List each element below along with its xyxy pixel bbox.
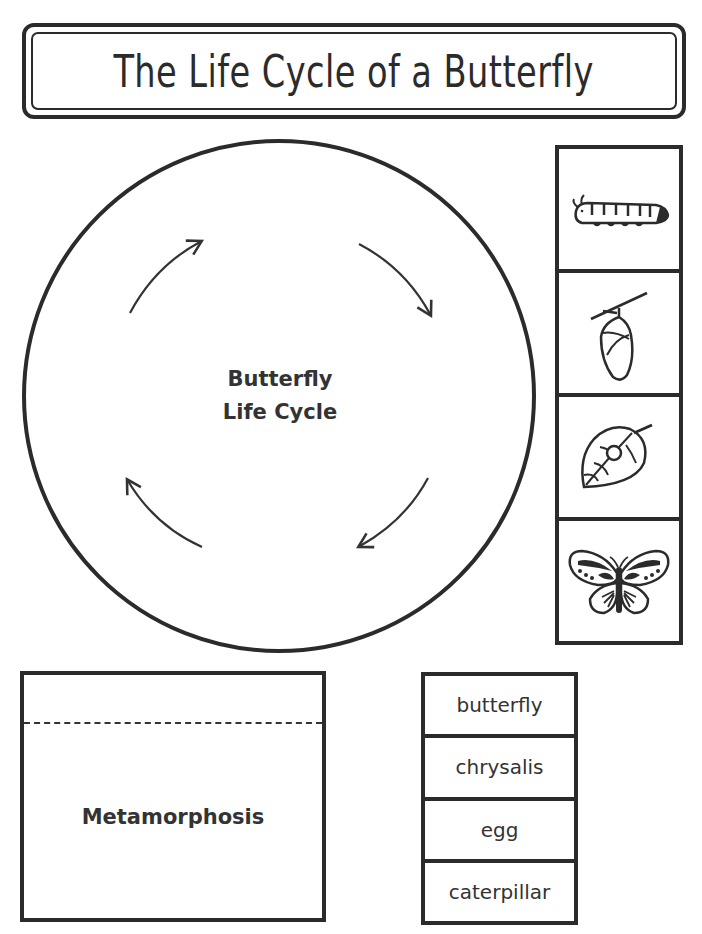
picture-card-caterpillar[interactable] bbox=[559, 149, 679, 273]
metamorphosis-box: Metamorphosis bbox=[20, 671, 326, 922]
metamorphosis-label: Metamorphosis bbox=[24, 805, 322, 829]
word-card-egg[interactable]: egg bbox=[425, 801, 574, 863]
title-banner-inner: The Life Cycle of a Butterfly bbox=[31, 32, 677, 110]
picture-card-butterfly[interactable] bbox=[559, 521, 679, 641]
word-cards-strip: butterfly chrysalis egg caterpillar bbox=[421, 672, 578, 925]
picture-card-egg[interactable] bbox=[559, 397, 679, 521]
caterpillar-icon bbox=[564, 179, 674, 239]
butterfly-icon bbox=[564, 543, 674, 619]
center-label-line2: Life Cycle bbox=[223, 396, 337, 429]
word-card-chrysalis[interactable]: chrysalis bbox=[425, 738, 574, 800]
chrysalis-icon bbox=[579, 283, 659, 383]
word-card-caterpillar[interactable]: caterpillar bbox=[425, 863, 574, 921]
title-banner: The Life Cycle of a Butterfly bbox=[22, 23, 686, 119]
picture-cards-strip bbox=[555, 145, 683, 645]
fold-line-dashed bbox=[24, 722, 322, 724]
center-label-line1: Butterfly bbox=[228, 363, 333, 396]
picture-card-chrysalis[interactable] bbox=[559, 273, 679, 397]
cycle-center-label: Butterfly Life Cycle bbox=[20, 136, 540, 656]
page-title: The Life Cycle of a Butterfly bbox=[114, 46, 594, 97]
word-card-butterfly[interactable]: butterfly bbox=[425, 676, 574, 738]
egg-on-leaf-icon bbox=[574, 417, 664, 497]
